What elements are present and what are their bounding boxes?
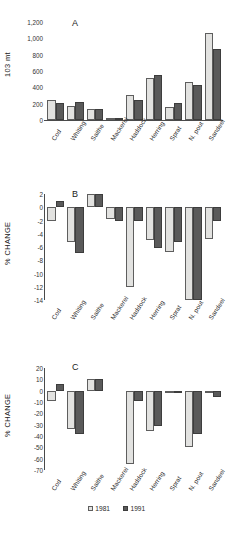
y-axis-line-c (44, 368, 45, 470)
bar-1981 (87, 109, 95, 120)
y-tick-label: -20 (34, 410, 43, 417)
bar-group (144, 368, 164, 470)
bar-1981 (146, 391, 154, 432)
bar-group (66, 368, 86, 470)
bar-1981 (185, 207, 193, 300)
plot-area-a (46, 22, 223, 120)
x-axis-labels-a: CodWhitingSaitheMackerelHaddockHerringSp… (0, 124, 233, 170)
bar-1981 (126, 95, 134, 120)
legend-item-1991: 1991 (123, 505, 145, 512)
plot-area-c (46, 368, 223, 470)
bar-1981 (126, 207, 134, 287)
bar-group (184, 194, 204, 300)
y-tick-label: -30 (34, 421, 43, 428)
bar-group (125, 22, 145, 120)
x-tick-label: N. pout (187, 470, 204, 492)
y-tick-label: -60 (34, 455, 43, 462)
bar-1981 (47, 391, 55, 401)
y-tick-label: -10 (34, 270, 43, 277)
bar-1981 (205, 207, 213, 239)
y-tick-label: 600 (32, 68, 43, 75)
bar-1991 (213, 49, 221, 120)
bar-1991 (56, 201, 64, 208)
x-tick-label: Saithe (89, 122, 105, 142)
bar-group (164, 368, 184, 470)
bar-1991 (154, 75, 162, 120)
bar-1981 (106, 118, 114, 120)
bar-group (184, 368, 204, 470)
bar-1981 (165, 391, 173, 393)
y-tick-label: 1,000 (27, 35, 43, 42)
bar-1991 (174, 207, 182, 241)
bar-1991 (75, 102, 83, 120)
bar-group (144, 194, 164, 300)
x-tick-label: Sandeel (207, 297, 226, 321)
bar-1991 (95, 194, 103, 207)
bar-1991 (154, 207, 162, 248)
chart-panel-b: % CHANGE B 20-2-4-6-8-10-12-14 CodWhitin… (0, 172, 233, 348)
x-axis-labels-b: CodWhitingSaitheMackerelHaddockHerringSp… (0, 303, 233, 349)
legend-item-1981: 1981 (88, 505, 110, 512)
y-axis-line-b (44, 194, 45, 300)
x-tick-label: Whiting (69, 470, 87, 492)
bar-1981 (87, 194, 95, 207)
bar-1981 (67, 106, 75, 120)
y-tick-label: 400 (32, 84, 43, 91)
legend-label-1981: 1981 (95, 505, 110, 512)
y-tick-label: -6 (37, 244, 43, 251)
legend-swatch-1991 (123, 506, 128, 511)
bar-1991 (75, 391, 83, 434)
x-tick-label: N. pout (187, 299, 204, 321)
y-tick-label: 800 (32, 51, 43, 58)
bar-1991 (174, 103, 182, 120)
bar-1991 (154, 391, 162, 426)
bar-1981 (47, 100, 55, 120)
bar-1981 (106, 207, 114, 219)
bar-1991 (115, 207, 123, 220)
y-tick-label: -8 (37, 257, 43, 264)
plot-area-b (46, 194, 223, 300)
bar-1981 (165, 207, 173, 252)
x-tick-label: Sprat (168, 125, 182, 142)
bar-group (85, 194, 105, 300)
x-tick-label: Herring (148, 299, 166, 321)
chart-panel-a: 103 mt A 02004006008001,0001,200 CodWhit… (0, 0, 233, 172)
bar-group (46, 22, 66, 120)
bar-1981 (67, 207, 75, 241)
y-axis-label-a: 103 mt (3, 36, 12, 94)
bar-1991 (134, 207, 142, 220)
x-tick-label: Sandeel (207, 118, 226, 142)
bar-group (85, 368, 105, 470)
bar-group (105, 368, 125, 470)
bar-group (125, 368, 145, 470)
bar-1981 (185, 82, 193, 120)
bar-group (46, 194, 66, 300)
bar-1981 (87, 379, 95, 390)
bar-1981 (126, 391, 134, 465)
bar-group (203, 368, 223, 470)
x-tick-label: Sandeel (207, 468, 226, 492)
y-tick-label: -40 (34, 433, 43, 440)
bar-group (164, 22, 184, 120)
bar-1981 (146, 78, 154, 120)
bar-group (125, 194, 145, 300)
x-tick-label: N. pout (187, 120, 204, 142)
y-tick-label: -10 (34, 399, 43, 406)
bar-group (144, 22, 164, 120)
y-tick-label: -50 (34, 444, 43, 451)
bar-group (46, 368, 66, 470)
y-tick-label: 0 (39, 387, 43, 394)
x-tick-label: Cod (50, 128, 62, 142)
y-tick-label: -4 (37, 230, 43, 237)
bar-1991 (75, 207, 83, 253)
bar-group (66, 194, 86, 300)
y-tick-label: 0 (39, 204, 43, 211)
bar-1981 (67, 391, 75, 430)
bar-1991 (193, 85, 201, 120)
y-tick-label: 2 (39, 191, 43, 198)
x-axis-labels-c: CodWhitingSaitheMackerelHaddockHerringSp… (0, 474, 233, 520)
bar-1991 (213, 207, 221, 220)
bar-1991 (193, 207, 201, 300)
x-tick-label: Whiting (69, 120, 87, 142)
bar-1981 (205, 391, 213, 393)
